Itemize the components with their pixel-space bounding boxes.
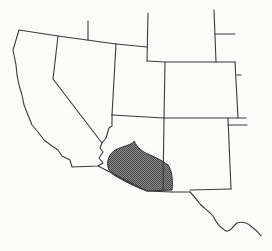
colorado-east-line (235, 62, 238, 118)
wyoming-east-line (214, 10, 216, 62)
rio-grande-border (190, 192, 261, 236)
nevada-arizona-line (102, 115, 112, 143)
idaho-utah-line (116, 44, 147, 47)
newmexico-south-line (172, 189, 231, 192)
utah-colorado-line (164, 62, 165, 118)
range-map (0, 0, 272, 251)
utah-arizona-line (112, 115, 164, 118)
california-border (13, 30, 103, 167)
newmexico-east-line (228, 118, 231, 189)
oregon-nevada-line (58, 36, 116, 44)
nevada-utah-line (112, 44, 116, 115)
idaho-wyoming-line (147, 13, 148, 61)
wyoming-south-line (147, 61, 235, 62)
